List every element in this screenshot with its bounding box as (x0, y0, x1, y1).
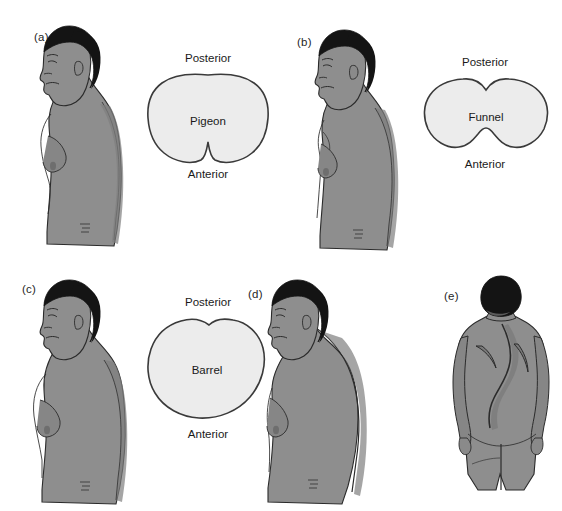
panel-b-body-figure (295, 20, 425, 256)
right-hand-e (531, 438, 543, 455)
nipple-d (273, 426, 279, 434)
nipple-a (50, 162, 56, 170)
panel-a: (a) Po (0, 0, 281, 256)
figure-root: (a) Po (0, 0, 562, 511)
barrel-label: Barrel (192, 364, 223, 376)
cross-section-funnel: Funnel (421, 76, 551, 166)
ear-d (303, 315, 312, 329)
ear-a (75, 61, 84, 75)
panel-d: (d) (230, 256, 410, 511)
panel-c-body-figure (16, 270, 161, 510)
panel-e-body-figure (450, 274, 562, 496)
anterior-label-b: Anterior (425, 158, 545, 170)
funnel-label: Funnel (468, 111, 503, 123)
posterior-label-a: Posterior (148, 52, 268, 64)
posterior-label-b: Posterior (425, 56, 545, 68)
cross-section-pigeon: Pigeon (145, 72, 271, 172)
panel-a-body-figure (18, 18, 158, 256)
panel-b: (b) Posterior Funnel (281, 0, 562, 256)
ear-b (350, 65, 359, 79)
anterior-label-a: Anterior (148, 168, 268, 180)
head-back-e (481, 276, 521, 316)
nipple-c (44, 426, 50, 434)
left-hand-e (459, 438, 471, 455)
nipple-b (323, 168, 329, 176)
ear-c (75, 315, 84, 329)
panel-d-body-figure (246, 272, 396, 510)
panel-e: (e) (426, 256, 562, 511)
pigeon-label: Pigeon (190, 115, 226, 127)
